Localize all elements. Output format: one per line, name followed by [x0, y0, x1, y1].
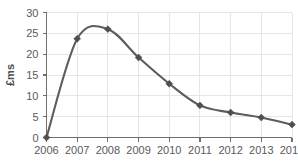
x-tick-label: 2013 [249, 144, 273, 156]
y-tick-label: 15 [26, 69, 38, 81]
x-tick-label: 2006 [34, 144, 58, 156]
y-tick-label: 25 [26, 27, 38, 39]
x-axis-ticks: 200620072008200920102011201220132014 [34, 138, 298, 156]
y-tick-label: 30 [26, 7, 38, 19]
y-axis-label: £ms [4, 64, 16, 86]
x-tick-label: 2007 [65, 144, 89, 156]
x-tick-label: 2010 [157, 144, 181, 156]
data-point-marker [227, 109, 234, 116]
y-axis-ticks: 051015202530 [26, 7, 46, 144]
x-tick-label: 2014 [280, 144, 298, 156]
x-tick-label: 2011 [188, 144, 212, 156]
x-tick-label: 2009 [126, 144, 150, 156]
chart-canvas: 0510152025302006200720082009201020112012… [0, 0, 298, 166]
data-point-marker [104, 26, 111, 33]
data-point-marker [258, 114, 265, 121]
data-point-marker [43, 134, 50, 141]
y-tick-label: 5 [32, 111, 38, 123]
data-point-marker [289, 121, 296, 128]
y-tick-label: 20 [26, 48, 38, 60]
x-tick-label: 2012 [218, 144, 242, 156]
y-tick-label: 10 [26, 90, 38, 102]
line-chart: 0510152025302006200720082009201020112012… [0, 0, 298, 166]
x-tick-label: 2008 [96, 144, 120, 156]
y-tick-label: 0 [32, 132, 38, 144]
